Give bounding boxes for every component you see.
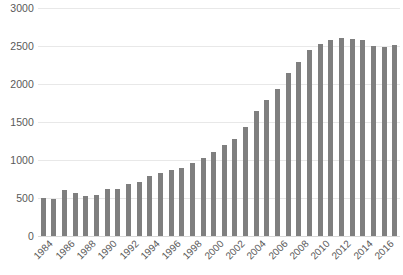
x-tick-label: 2002 bbox=[223, 238, 247, 262]
bar bbox=[382, 47, 387, 236]
y-axis: 050010001500200025003000 bbox=[0, 0, 34, 244]
bar bbox=[243, 127, 248, 236]
bar bbox=[222, 145, 227, 236]
y-tick-label: 2000 bbox=[10, 78, 34, 90]
x-tick-label: 2010 bbox=[308, 238, 332, 262]
bar bbox=[328, 40, 333, 236]
x-tick-label: 1988 bbox=[74, 238, 98, 262]
x-axis: 1984198619881990199219941996199820002002… bbox=[38, 238, 400, 275]
bars-layer bbox=[38, 8, 400, 236]
gridline-0 bbox=[38, 236, 400, 237]
bar-chart: 050010001500200025003000 198419861988199… bbox=[0, 0, 403, 275]
bar bbox=[105, 189, 110, 236]
bar bbox=[73, 193, 78, 236]
bar bbox=[94, 195, 99, 236]
bar bbox=[126, 184, 131, 236]
bar bbox=[169, 170, 174, 236]
x-tick-label: 1996 bbox=[159, 238, 183, 262]
bar bbox=[158, 173, 163, 236]
bar bbox=[264, 100, 269, 236]
bar bbox=[286, 73, 291, 236]
x-tick-label: 1984 bbox=[32, 238, 56, 262]
bar bbox=[147, 176, 152, 236]
bar bbox=[41, 198, 46, 236]
bar bbox=[201, 158, 206, 236]
x-tick-label: 2014 bbox=[351, 238, 375, 262]
x-tick-label: 1998 bbox=[181, 238, 205, 262]
bar bbox=[115, 189, 120, 236]
bar bbox=[232, 139, 237, 236]
x-tick-label: 2008 bbox=[287, 238, 311, 262]
bar bbox=[254, 111, 259, 236]
bar bbox=[190, 163, 195, 236]
bar bbox=[339, 38, 344, 236]
y-tick-label: 0 bbox=[28, 230, 34, 242]
bar bbox=[179, 168, 184, 236]
plot-area bbox=[38, 8, 400, 236]
bar bbox=[392, 45, 397, 236]
y-tick-label: 2500 bbox=[10, 40, 34, 52]
bar bbox=[275, 89, 280, 236]
x-tick-label: 2004 bbox=[245, 238, 269, 262]
x-tick-label: 1992 bbox=[117, 238, 141, 262]
bar bbox=[83, 196, 88, 236]
bar bbox=[137, 182, 142, 236]
bar bbox=[350, 39, 355, 236]
y-tick-label: 1000 bbox=[10, 154, 34, 166]
x-tick-label: 1994 bbox=[138, 238, 162, 262]
bar bbox=[296, 62, 301, 236]
bar bbox=[211, 152, 216, 236]
bar bbox=[318, 44, 323, 236]
y-tick-label: 3000 bbox=[10, 2, 34, 14]
bar bbox=[307, 50, 312, 236]
bar bbox=[371, 46, 376, 236]
x-tick-label: 1990 bbox=[95, 238, 119, 262]
x-tick-label: 1986 bbox=[53, 238, 77, 262]
x-tick-label: 2012 bbox=[330, 238, 354, 262]
y-tick-label: 500 bbox=[16, 192, 34, 204]
bar bbox=[51, 199, 56, 236]
x-tick-label: 2016 bbox=[372, 238, 396, 262]
bar bbox=[360, 40, 365, 236]
x-tick-label: 2006 bbox=[266, 238, 290, 262]
bar bbox=[62, 190, 67, 236]
x-tick-label: 2000 bbox=[202, 238, 226, 262]
y-tick-label: 1500 bbox=[10, 116, 34, 128]
